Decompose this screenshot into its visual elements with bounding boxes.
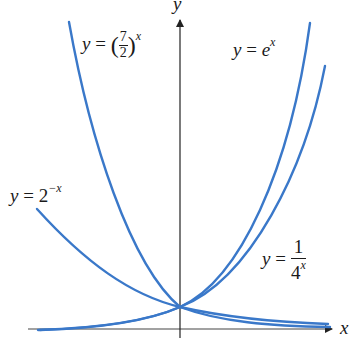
label-e-x: y = ex [233,36,275,59]
curve-one-over-four-x [40,66,325,330]
exponential-graph [0,0,353,341]
label-seven-halves: y = (72)x [82,30,141,61]
y-axis-label: y [173,0,181,13]
label-one-over-four-x: y = 14x [262,237,306,284]
x-axis-label: x [340,318,348,337]
label-two-neg-x: y = 2−x [10,182,62,205]
